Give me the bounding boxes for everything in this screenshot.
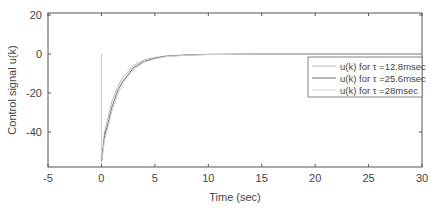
x-tick-label: 15 <box>256 172 268 184</box>
legend-label: u(k) for τ =28msec <box>340 85 418 96</box>
x-tick-label: 25 <box>362 172 374 184</box>
y-tick-label: -40 <box>26 126 42 138</box>
y-axis-label: Control signal u(k) <box>6 45 18 134</box>
x-tick-label: 10 <box>202 172 214 184</box>
x-tick-label: 30 <box>416 172 428 184</box>
x-tick-label: 5 <box>152 172 158 184</box>
y-tick-label: 20 <box>30 9 42 21</box>
y-tick-label: 0 <box>36 48 42 60</box>
x-tick-label: 0 <box>98 172 104 184</box>
x-tick-label: 20 <box>309 172 321 184</box>
legend-label: u(k) for τ =25.6msec <box>340 73 426 84</box>
x-tick-label: -5 <box>43 172 53 184</box>
legend-label: u(k) for τ =12.8msec <box>340 61 426 72</box>
chart: -5051015202530200-20-40Time (sec)Control… <box>0 0 437 215</box>
x-axis-label: Time (sec) <box>209 191 261 203</box>
y-tick-label: -20 <box>26 87 42 99</box>
